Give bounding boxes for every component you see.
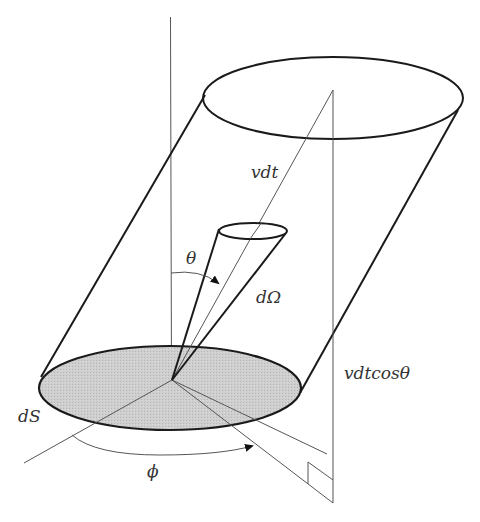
label-vdt: vdt xyxy=(251,162,278,182)
cylinder-right-edge xyxy=(300,110,458,393)
cylinder-diagram: vdt θ dΩ vdtcosθ dS ϕ xyxy=(0,0,480,522)
right-angle-marker xyxy=(308,462,333,484)
surface-element-disk xyxy=(39,346,301,430)
phi-angle-arc xyxy=(72,435,252,455)
label-ds: dS xyxy=(18,406,41,426)
label-domega: dΩ xyxy=(256,287,281,307)
label-phi: ϕ xyxy=(147,461,159,481)
label-theta: θ xyxy=(186,248,196,268)
theta-angle-arc xyxy=(171,272,218,283)
vertical-axis-line xyxy=(171,17,172,380)
cone-top-ellipse xyxy=(219,223,287,239)
cylinder-left-edge xyxy=(41,95,205,377)
label-vdtcos-theta: vdtcosθ xyxy=(344,363,410,383)
